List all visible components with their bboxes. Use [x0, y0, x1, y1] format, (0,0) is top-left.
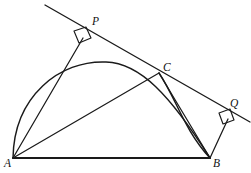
figure-canvas [0, 0, 251, 173]
vertex-label-b: B [213, 158, 220, 170]
chord-cb [159, 73, 210, 158]
vertex-label-c: C [163, 62, 171, 74]
segment-bq [210, 119, 228, 158]
tangent-line-at-c [45, 5, 250, 122]
segment-ap [13, 38, 83, 158]
geometry-figure: A B C P Q [0, 0, 251, 173]
vertex-label-p: P [92, 16, 99, 28]
chord-ac [13, 73, 159, 158]
vertex-label-q: Q [230, 98, 238, 110]
vertex-label-a: A [4, 158, 11, 170]
